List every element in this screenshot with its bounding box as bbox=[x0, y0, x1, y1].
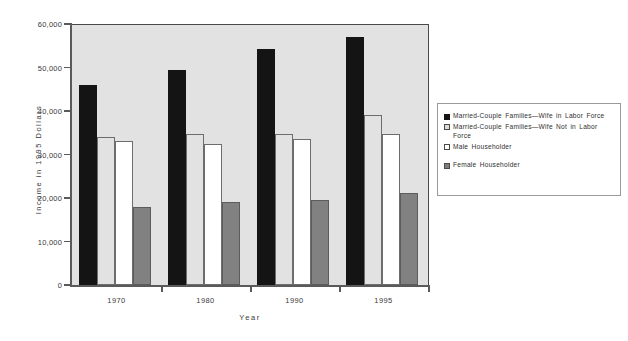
legend-item-married-wife-in-labor-force: Married-Couple Families—Wife in Labor Fo… bbox=[444, 111, 614, 121]
legend-swatch-icon bbox=[444, 114, 450, 120]
bar bbox=[346, 37, 364, 285]
y-axis-tick-label: 30,000 bbox=[38, 150, 62, 159]
y-axis-tick bbox=[64, 110, 72, 112]
x-axis-tick bbox=[250, 285, 252, 292]
bar bbox=[293, 139, 311, 285]
y-axis-tick-label: 50,000 bbox=[38, 63, 62, 72]
y-axis-tick bbox=[64, 241, 72, 243]
y-axis-tick-label: 40,000 bbox=[38, 107, 62, 116]
bar-chart-figure: Income in 1995 Dollars 010,00020,00030,0… bbox=[0, 0, 628, 341]
y-axis-tick-label: 60,000 bbox=[38, 20, 62, 29]
x-axis-tick-label: 1995 bbox=[374, 296, 392, 305]
legend-swatch-icon bbox=[444, 124, 450, 130]
bar bbox=[400, 193, 418, 285]
x-axis-tick-label: 1990 bbox=[285, 296, 303, 305]
legend-item-married-wife-not-in-labor-force: Married-Couple Families—Wife Not in Labo… bbox=[444, 122, 614, 141]
bar bbox=[222, 202, 240, 285]
bar bbox=[204, 144, 222, 285]
y-axis-tick bbox=[64, 23, 72, 25]
bar bbox=[275, 134, 293, 285]
y-axis-tick-label: 20,000 bbox=[38, 194, 62, 203]
legend-label: Female Householder bbox=[453, 160, 520, 170]
bar bbox=[311, 200, 329, 285]
legend: Married-Couple Families—Wife in Labor Fo… bbox=[437, 103, 621, 196]
legend-swatch-icon bbox=[444, 163, 450, 169]
bar bbox=[168, 70, 186, 285]
y-axis-tick bbox=[64, 67, 72, 69]
legend-item-male-householder: Male Householder bbox=[444, 142, 614, 152]
x-axis-tick bbox=[428, 285, 430, 292]
bar bbox=[257, 49, 275, 285]
bar bbox=[382, 134, 400, 285]
bar bbox=[79, 85, 97, 285]
bar bbox=[133, 207, 151, 285]
y-axis-tick-label: 0 bbox=[58, 281, 62, 290]
bar bbox=[186, 134, 204, 285]
y-axis-tick bbox=[64, 284, 72, 286]
y-axis-tick bbox=[64, 154, 72, 156]
x-axis-tick-label: 1980 bbox=[196, 296, 214, 305]
x-axis-tick bbox=[161, 285, 163, 292]
legend-label: Married-Couple Families—Wife Not in Labo… bbox=[453, 122, 614, 141]
bar bbox=[364, 115, 382, 285]
bar bbox=[97, 137, 115, 285]
bar bbox=[115, 141, 133, 285]
x-axis-title: Year bbox=[0, 313, 500, 322]
legend-label: Married-Couple Families—Wife in Labor Fo… bbox=[453, 111, 605, 121]
legend-item-female-householder: Female Householder bbox=[444, 160, 614, 170]
x-axis-tick-label: 1970 bbox=[107, 296, 125, 305]
legend-label: Male Householder bbox=[453, 142, 512, 152]
y-axis-tick bbox=[64, 197, 72, 199]
y-axis-tick-label: 10,000 bbox=[38, 237, 62, 246]
x-axis-tick bbox=[339, 285, 341, 292]
legend-swatch-icon bbox=[444, 144, 450, 150]
